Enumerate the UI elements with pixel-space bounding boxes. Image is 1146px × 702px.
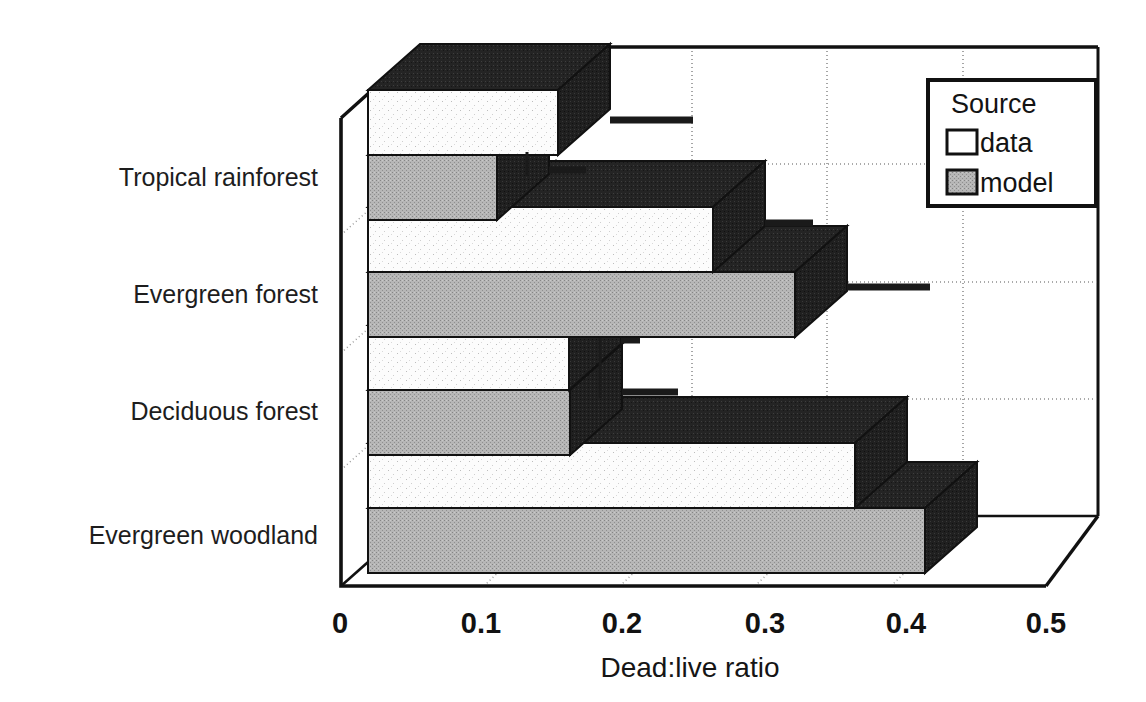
legend-swatch-data	[947, 130, 977, 154]
chart-container: Tropical rainforest Evergreen forest Dec…	[0, 0, 1146, 702]
xtick-4: 0.4	[886, 607, 926, 639]
x-axis-tick-labels: 0 0.1 0.2 0.3 0.4 0.5	[332, 607, 1066, 639]
legend-item-data[interactable]: data	[947, 128, 1034, 158]
bar-tropical-rainforest-data[interactable]	[368, 44, 610, 155]
xtick-5: 0.5	[1026, 607, 1066, 639]
category-label-evergreen-forest: Evergreen forest	[133, 280, 318, 308]
legend-label-model: model	[980, 168, 1054, 198]
xtick-3: 0.3	[745, 607, 785, 639]
category-label-deciduous-forest: Deciduous forest	[130, 397, 318, 425]
legend-title: Source	[951, 89, 1037, 119]
x-axis-title: Dead:live ratio	[601, 652, 780, 683]
xtick-2: 0.2	[602, 607, 642, 639]
xtick-0: 0	[332, 607, 348, 639]
category-label-evergreen-woodland: Evergreen woodland	[89, 521, 318, 549]
legend-label-data: data	[980, 128, 1034, 158]
category-axis-labels: Tropical rainforest Evergreen forest Dec…	[89, 163, 318, 549]
legend-swatch-model	[947, 170, 977, 194]
legend: Source data model	[928, 80, 1096, 206]
category-label-tropical-rainforest: Tropical rainforest	[119, 163, 318, 191]
legend-item-model[interactable]: model	[947, 168, 1054, 198]
xtick-1: 0.1	[461, 607, 501, 639]
bar-chart-svg: Tropical rainforest Evergreen forest Dec…	[0, 0, 1146, 702]
